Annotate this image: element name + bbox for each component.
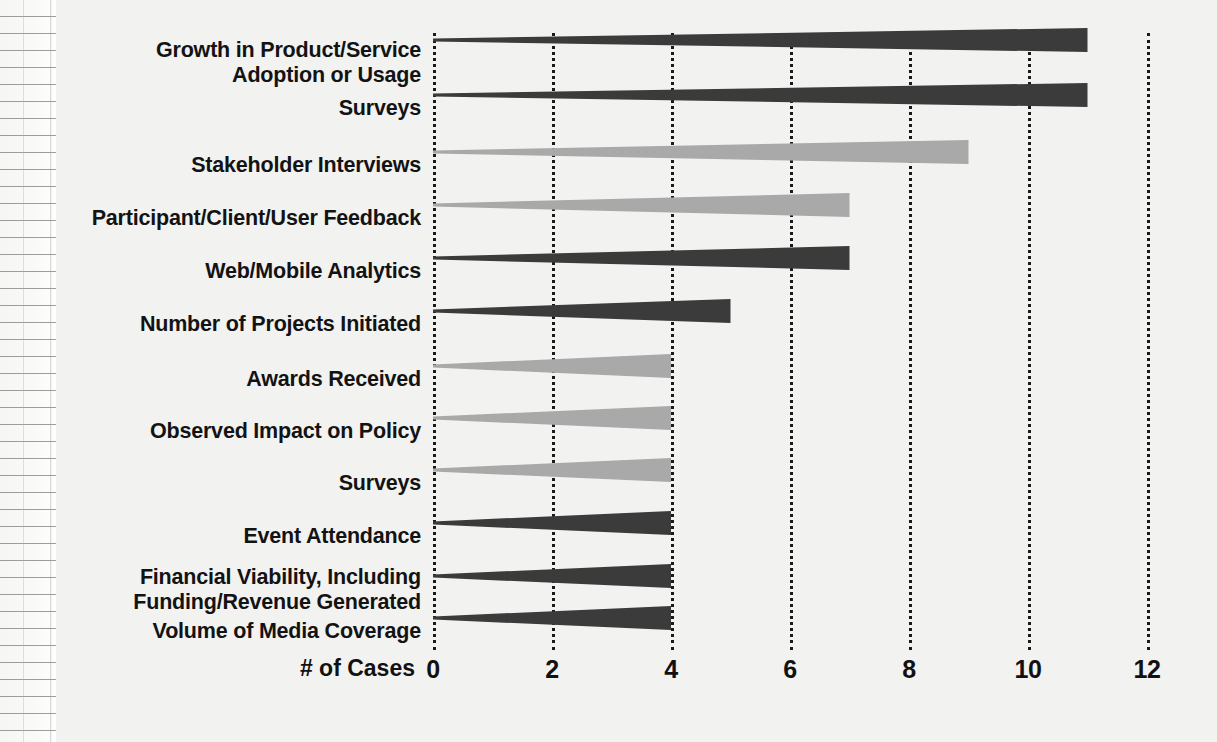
- bar-dark: [433, 28, 1088, 52]
- category-label: Awards Received: [246, 367, 421, 392]
- bar-light: [433, 406, 671, 430]
- bar-dark: [433, 511, 671, 535]
- gridline-2: [552, 33, 555, 650]
- bar-dark: [433, 246, 850, 270]
- x-tick-label-8: 8: [879, 655, 939, 684]
- x-axis-title: # of Cases: [215, 655, 415, 682]
- category-label: Surveys: [339, 471, 421, 496]
- gridline-10: [1028, 33, 1031, 650]
- bar-dark: [433, 83, 1088, 107]
- category-label: Number of Projects Initiated: [140, 312, 421, 337]
- category-label: Web/Mobile Analytics: [205, 259, 421, 284]
- category-label: Volume of Media Coverage: [153, 619, 421, 644]
- x-tick-label-12: 12: [1117, 655, 1177, 684]
- gridline-6: [790, 33, 793, 650]
- bar-dark: [433, 564, 671, 588]
- category-label: Participant/Client/User Feedback: [92, 206, 421, 231]
- x-tick-label-10: 10: [998, 655, 1058, 684]
- gridline-12: [1147, 33, 1150, 650]
- x-tick-label-6: 6: [760, 655, 820, 684]
- gridline-8: [909, 33, 912, 650]
- category-label: Growth in Product/Service Adoption or Us…: [156, 38, 421, 88]
- gridline-4: [671, 33, 674, 650]
- category-label: Stakeholder Interviews: [191, 153, 421, 178]
- x-tick-label-2: 2: [522, 655, 582, 684]
- bar-chart-plot-area: 024681012Growth in Product/Service Adopt…: [0, 0, 1217, 742]
- category-label: Observed Impact on Policy: [150, 419, 421, 444]
- bar-light: [433, 140, 969, 164]
- bar-dark: [433, 299, 731, 323]
- category-label: Financial Viability, Including Funding/R…: [133, 565, 421, 615]
- gridline-0: [433, 33, 436, 650]
- bar-light: [433, 193, 850, 217]
- chart-page: 024681012Growth in Product/Service Adopt…: [0, 0, 1217, 742]
- category-label: Event Attendance: [243, 524, 421, 549]
- category-label: Surveys: [339, 96, 421, 121]
- bar-light: [433, 458, 671, 482]
- bar-light: [433, 354, 671, 378]
- bar-dark: [433, 606, 671, 630]
- x-tick-label-4: 4: [641, 655, 701, 684]
